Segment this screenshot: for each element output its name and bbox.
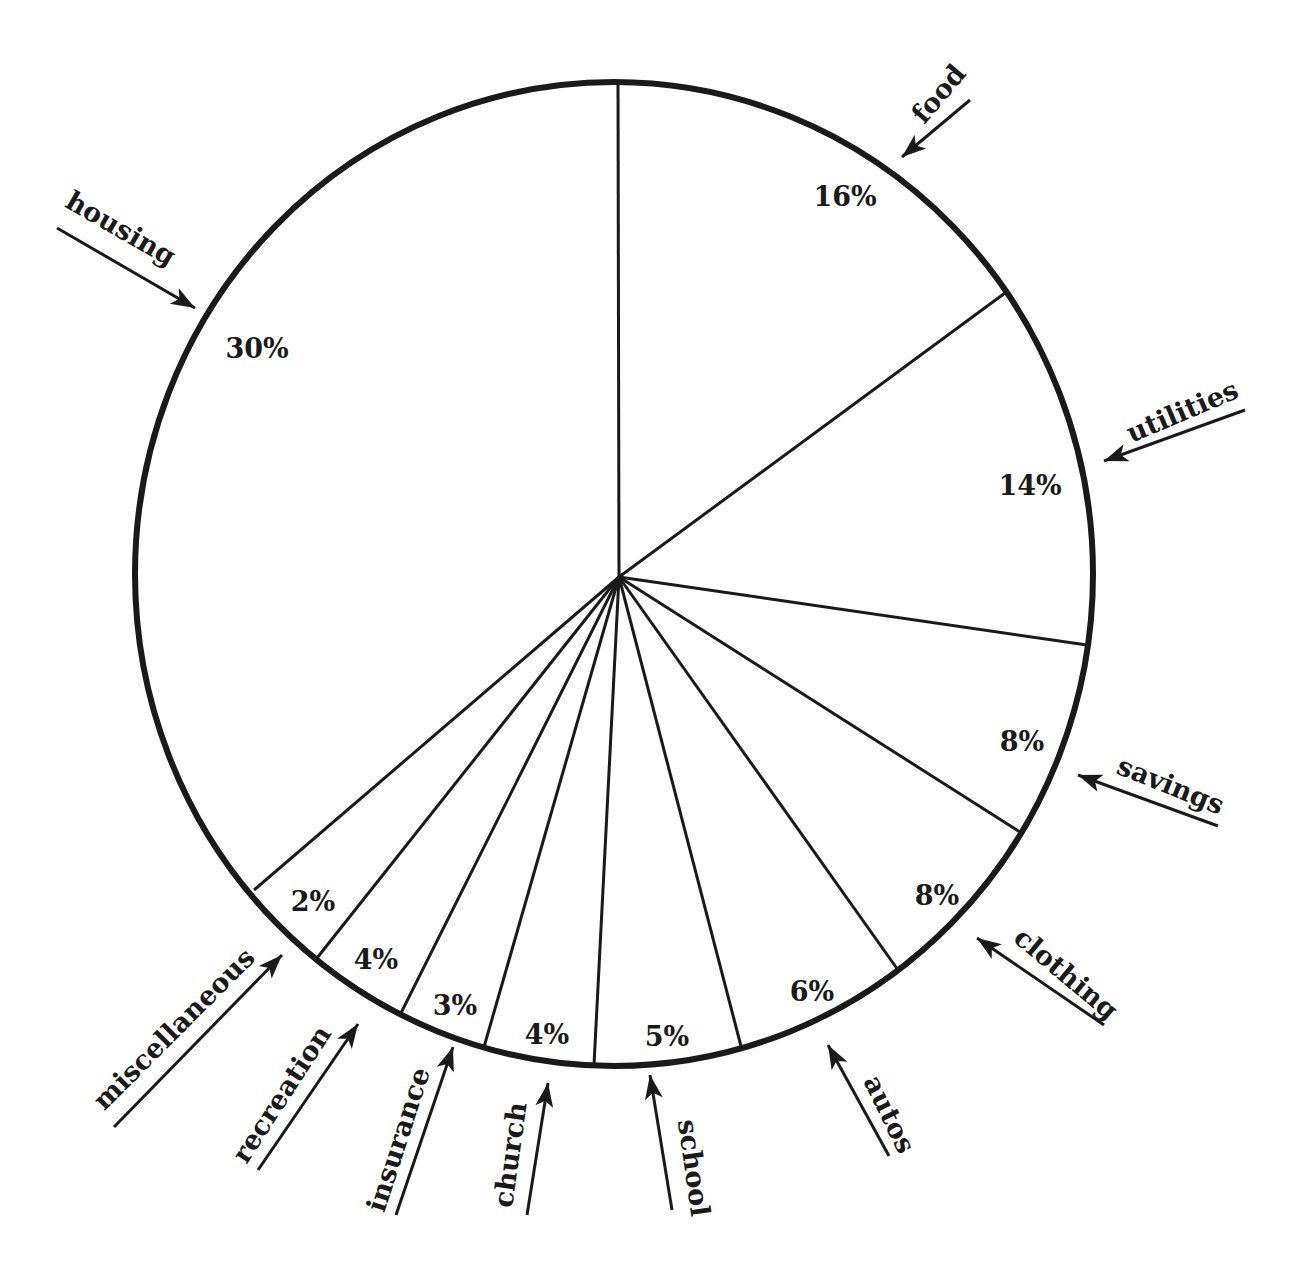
percent-label-insurance: 3% bbox=[433, 990, 477, 1021]
percent-label-savings: 8% bbox=[1000, 726, 1044, 757]
pie-chart: 16%14%8%8%6%5%4%3%4%2%30% foodhousinguti… bbox=[0, 0, 1293, 1277]
percent-label-housing: 30% bbox=[225, 333, 288, 364]
callout-church: church bbox=[487, 1083, 553, 1215]
pie-rim bbox=[135, 82, 1093, 1066]
category-label: church bbox=[487, 1100, 533, 1210]
arrowhead-icon bbox=[977, 938, 1002, 959]
callout-miscellaneous: miscellaneous bbox=[87, 942, 282, 1127]
category-label: recreation bbox=[226, 1019, 338, 1168]
percent-label-miscellaneous: 2% bbox=[291, 886, 335, 917]
percent-label-school: 5% bbox=[645, 1021, 689, 1052]
category-label: miscellaneous bbox=[87, 942, 261, 1116]
category-label: food bbox=[905, 58, 972, 129]
category-label: clothing bbox=[1008, 921, 1124, 1026]
slice-divider bbox=[618, 82, 619, 577]
percent-label-food: 16% bbox=[813, 181, 876, 212]
percent-label-utilities: 14% bbox=[998, 470, 1061, 501]
callout-recreation: recreation bbox=[226, 1019, 358, 1170]
arrowhead-icon bbox=[828, 1045, 847, 1070]
category-label: insurance bbox=[360, 1063, 436, 1215]
callout-autos: autos bbox=[828, 1045, 922, 1158]
percent-label-recreation: 4% bbox=[354, 944, 398, 975]
arrowhead-icon bbox=[170, 288, 195, 308]
callout-savings: savings bbox=[1078, 750, 1229, 826]
percent-label-clothing: 8% bbox=[915, 880, 959, 911]
percent-label-autos: 6% bbox=[790, 976, 834, 1007]
category-label: utilities bbox=[1122, 374, 1243, 449]
callout-food: food bbox=[902, 58, 972, 157]
category-label: housing bbox=[61, 185, 182, 273]
callout-school: school bbox=[645, 1075, 716, 1218]
percent-label-church: 4% bbox=[525, 1019, 569, 1050]
category-label: school bbox=[672, 1117, 716, 1218]
callout-insurance: insurance bbox=[360, 1047, 454, 1215]
callout-housing: housing bbox=[57, 185, 195, 308]
callout-utilities: utilities bbox=[1104, 374, 1245, 461]
callout-clothing: clothing bbox=[977, 921, 1124, 1026]
arrowhead-icon bbox=[337, 1024, 358, 1049]
